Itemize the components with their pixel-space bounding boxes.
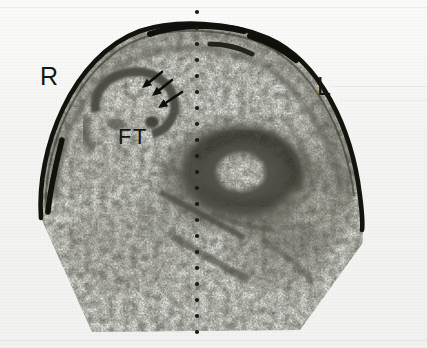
brain-parenchyma xyxy=(20,10,380,340)
midline-dot xyxy=(195,314,199,318)
midline-dot xyxy=(195,330,199,334)
midline-dot xyxy=(195,10,199,14)
midline-dot xyxy=(195,90,199,94)
midline-dot xyxy=(195,74,199,78)
left-side-marker: L xyxy=(317,74,331,99)
midline-dot xyxy=(195,170,199,174)
midline-dot xyxy=(195,202,199,206)
midline-dotted-marker xyxy=(195,10,199,334)
ultrasound-figure: R L FT xyxy=(0,0,427,348)
midline-dot xyxy=(195,250,199,254)
midline-dot xyxy=(195,42,199,46)
midline-dot xyxy=(195,298,199,302)
midline-dot xyxy=(195,122,199,126)
right-side-marker: R xyxy=(40,64,59,89)
midline-dot xyxy=(195,154,199,158)
midline-dot xyxy=(195,106,199,110)
midline-dot xyxy=(195,218,199,222)
midline-dot xyxy=(195,186,199,190)
midline-dot xyxy=(195,234,199,238)
midline-dot xyxy=(195,282,199,286)
midline-dot xyxy=(195,58,199,62)
midline-dot xyxy=(195,26,199,30)
lesion-marker: FT xyxy=(118,126,148,148)
midline-dot xyxy=(195,138,199,142)
ultrasound-image-canvas xyxy=(0,0,427,348)
midline-dot xyxy=(195,266,199,270)
